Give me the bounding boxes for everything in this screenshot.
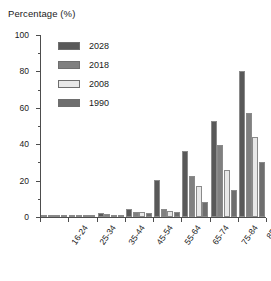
x-axis-label-45-54: 45-54 xyxy=(154,223,175,247)
bar-1990-16-24 xyxy=(61,215,67,217)
bar-1990-65-74 xyxy=(202,202,208,217)
bar-2008-55-64 xyxy=(167,211,173,217)
bar-2018-55-64 xyxy=(161,209,167,217)
x-axis-tick xyxy=(153,218,154,222)
bar-2008-45-54 xyxy=(139,212,145,217)
y-axis-tick-label: 0 xyxy=(24,212,29,222)
y-axis-tick-label: 20 xyxy=(20,176,29,186)
y-axis-tick-label: 60 xyxy=(20,103,29,113)
x-axis-label-55-64: 55-64 xyxy=(182,223,203,247)
legend-label: 2008 xyxy=(89,79,109,89)
legend-swatch-2028 xyxy=(58,42,80,50)
bar-group xyxy=(154,35,180,217)
bar-2008-25-34 xyxy=(83,215,89,217)
legend-swatch-2018 xyxy=(58,61,80,69)
y-axis-tick-label: 40 xyxy=(20,139,29,149)
bar-2008-85+ xyxy=(252,137,258,217)
x-axis-tick xyxy=(238,218,239,222)
bar-1990-35-44 xyxy=(118,215,124,217)
legend-label: 2028 xyxy=(89,41,109,51)
y-axis-tick-label: 80 xyxy=(20,66,29,76)
bar-group xyxy=(211,35,237,217)
y-axis-tick-minor xyxy=(38,199,41,200)
bar-2028-25-34 xyxy=(69,215,75,217)
x-axis-label-25-34: 25-34 xyxy=(98,223,119,247)
bar-2018-85+ xyxy=(246,113,252,217)
bar-1990-75-84 xyxy=(231,190,237,217)
bar-2008-75-84 xyxy=(224,170,230,217)
bar-2028-85+ xyxy=(239,71,245,218)
legend-swatch-2008 xyxy=(58,80,80,88)
x-axis-tick xyxy=(40,218,41,222)
bar-1990-55-64 xyxy=(174,212,180,217)
legend-item-1990[interactable]: 1990 xyxy=(58,93,109,112)
y-axis-tick-minor xyxy=(38,126,41,127)
bar-1990-45-54 xyxy=(146,213,152,217)
x-axis-label-65-74: 65-74 xyxy=(211,223,232,247)
bar-2028-55-64 xyxy=(154,180,160,217)
x-axis-label-75-84: 75-84 xyxy=(239,223,260,247)
legend-item-2028[interactable]: 2028 xyxy=(58,36,109,55)
bar-2018-16-24 xyxy=(48,215,54,217)
legend-swatch-1990 xyxy=(58,99,80,107)
bar-2018-45-54 xyxy=(133,212,139,217)
x-axis-tick xyxy=(210,218,211,222)
bar-2028-45-54 xyxy=(126,209,132,217)
bar-2008-16-24 xyxy=(54,215,60,217)
legend-label: 2018 xyxy=(89,60,109,70)
x-axis-tick xyxy=(68,218,69,222)
bar-group xyxy=(126,35,152,217)
x-axis-label-16-24: 16-24 xyxy=(69,223,90,247)
bar-chart: Percentage (%) 020406080100 16-2425-3435… xyxy=(0,0,271,281)
bar-2008-35-44 xyxy=(111,215,117,217)
y-axis-tick-minor xyxy=(38,90,41,91)
bar-2028-75-84 xyxy=(211,121,217,217)
chart-title: Percentage (%) xyxy=(8,8,75,19)
chart-legend: 2028201820081990 xyxy=(58,36,109,112)
legend-item-2018[interactable]: 2018 xyxy=(58,55,109,74)
bar-2028-35-44 xyxy=(98,213,104,217)
bar-2018-25-34 xyxy=(76,215,82,217)
bar-2028-16-24 xyxy=(41,215,47,217)
y-axis-tick-label: 100 xyxy=(15,30,29,40)
bar-1990-25-34 xyxy=(89,215,95,217)
x-axis-tick xyxy=(125,218,126,222)
x-axis-tick xyxy=(181,218,182,222)
bar-1990-85+ xyxy=(259,162,265,217)
bar-2018-35-44 xyxy=(104,214,110,217)
y-axis-tick-minor xyxy=(38,53,41,54)
y-axis-tick-minor xyxy=(38,162,41,163)
bar-2018-75-84 xyxy=(217,145,223,217)
bar-2008-65-74 xyxy=(196,186,202,217)
legend-label: 1990 xyxy=(89,98,109,108)
bar-group xyxy=(239,35,265,217)
bar-2028-65-74 xyxy=(182,151,188,217)
bar-2018-65-74 xyxy=(189,176,195,217)
legend-item-2008[interactable]: 2008 xyxy=(58,74,109,93)
x-axis-tick xyxy=(97,218,98,222)
x-axis-label-85+: 85+ xyxy=(264,223,271,241)
bar-group xyxy=(182,35,208,217)
x-axis-tick xyxy=(266,218,267,222)
x-axis-label-35-44: 35-44 xyxy=(126,223,147,247)
